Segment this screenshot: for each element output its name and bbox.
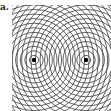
wave-ring [0,19,75,102]
interference-diagram [0,0,111,111]
source-1-dot [32,58,36,62]
wave-ring [12,0,111,111]
wave-rings [0,0,111,111]
wave-ring [45,19,111,102]
source-2-dot [84,58,88,62]
